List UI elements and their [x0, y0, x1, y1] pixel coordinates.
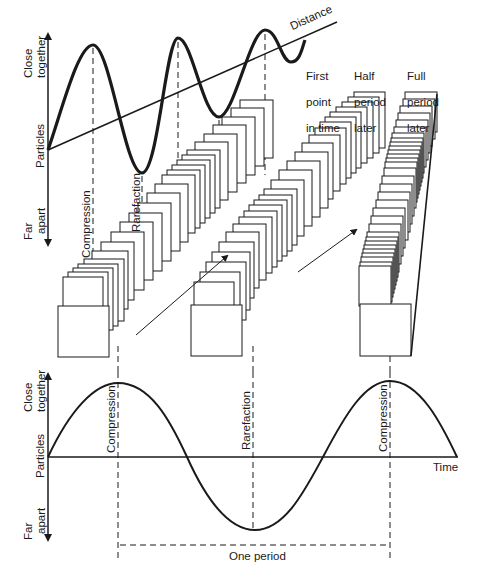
rarefaction-label-bottom: Rarefaction: [240, 391, 253, 450]
one-period-label: One period: [229, 550, 286, 563]
top-far-apart-label: Far apart: [22, 208, 48, 240]
time-label: Time: [433, 461, 458, 474]
bottom-far-apart-label: Far apart: [22, 508, 48, 540]
stack-label-half-period: Half period later: [354, 57, 386, 148]
bottom-particles-label: Particles: [34, 434, 47, 478]
bottom-close-together-label: Close together: [22, 370, 48, 412]
compression-label-top: Compression: [80, 190, 93, 258]
stack-label-full-period: Full period later: [407, 57, 439, 148]
arrow-half-to-full: [298, 230, 356, 272]
compression-label-bottom-1: Compression: [105, 385, 118, 453]
compression-label-bottom-2: Compression: [377, 384, 390, 452]
stack-label-first-point: First point in time: [306, 57, 340, 148]
distance-axis: [48, 22, 337, 150]
rarefaction-label-top: Rarefaction: [130, 173, 143, 232]
top-particles-label: Particles: [34, 124, 47, 168]
top-close-together-label: Close together: [22, 36, 48, 78]
